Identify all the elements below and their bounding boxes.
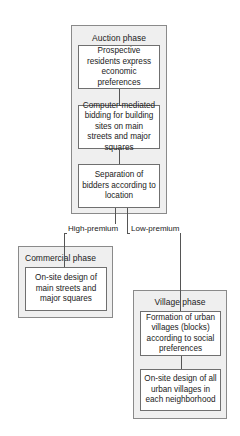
connector-line (64, 246, 65, 267)
step-separation-of-bidders: Separation of bidders according to locat… (78, 164, 160, 208)
connector-line (181, 356, 182, 369)
step-express-preferences: Prospective residents express economic p… (78, 45, 160, 89)
high-premium-label: High-premium (67, 224, 119, 234)
low-premium-label: Low-premium (130, 224, 180, 234)
step-design-main-streets: On-site design of main streets and major… (25, 267, 107, 311)
auction-phase-title: Auction phase (72, 33, 166, 43)
low-premium-connector (127, 208, 128, 234)
step-formation-urban-villages: Formation of urban villages (blocks) acc… (140, 311, 221, 356)
connector-line (119, 149, 120, 164)
commercial-phase-title: Commercial phase (25, 253, 112, 263)
step-design-urban-villages: On-site design of all urban villages in … (140, 369, 221, 411)
step-computer-bidding: Computer-mediated bidding for building s… (78, 105, 160, 149)
connector-line (180, 290, 181, 311)
